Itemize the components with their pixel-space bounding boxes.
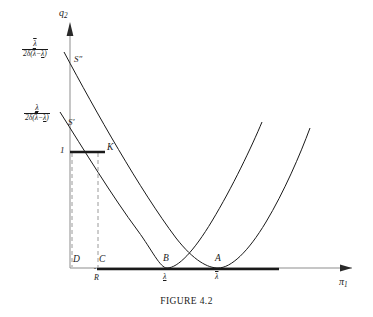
- curve-s-double-prime: [64, 52, 310, 268]
- point-label-b: B: [163, 254, 169, 264]
- figure-caption: FIGURE 4.2: [0, 296, 373, 306]
- figure-4-2: q2 π1 λ 2δ(λ−λ) λ 2δ(λ−λ) S″ S′ 1 K D C …: [0, 0, 373, 317]
- x-tick-lambda-over: λ: [215, 273, 218, 281]
- curve-s-prime: [60, 112, 262, 268]
- curve-label-s-double-prime: S″: [74, 55, 82, 64]
- x-tick-lambda-under: λ: [163, 273, 166, 281]
- point-label-k: K: [107, 143, 113, 153]
- y-axis-label: q2: [59, 8, 68, 20]
- y-tick-label-one: 1: [60, 146, 65, 155]
- x-tick-r-hat: R ̂: [94, 274, 99, 282]
- y-axis-arrowhead: [67, 22, 74, 36]
- point-label-d: D: [73, 255, 80, 265]
- x-axis-arrowhead: [340, 265, 352, 272]
- figure-canvas: [0, 0, 373, 317]
- y-intercept-label-s-double-prime: λ 2δ(λ−λ): [22, 40, 48, 58]
- curve-label-s-prime: S′: [68, 118, 74, 127]
- point-label-c: C: [99, 255, 105, 265]
- point-label-a: A: [215, 254, 221, 264]
- x-axis-label: π1: [339, 277, 348, 289]
- y-intercept-label-s-prime: λ 2δ(λ−λ): [24, 104, 50, 122]
